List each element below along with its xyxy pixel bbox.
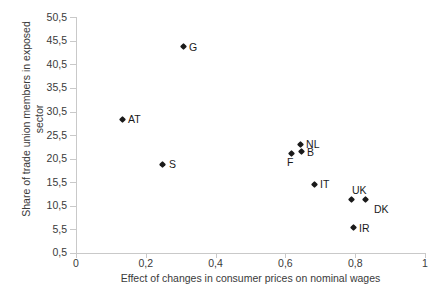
plot-area [76,17,425,253]
x-tick-label: 0,6 [265,257,305,269]
y-axis-title: Share of trade union members in exposed … [20,14,46,224]
data-point-label-g: G [189,42,197,52]
scatter-chart: Share of trade union members in exposed … [0,0,433,292]
x-tick-label: 0 [56,257,96,269]
y-tick-label: 45,5 [7,35,67,45]
x-axis-title: Effect of changes in consumer prices on … [76,272,425,284]
y-tick-label: 15,5 [7,177,67,187]
y-tick-label: 10,5 [7,200,67,210]
y-tick-label: 35,5 [7,82,67,92]
y-tick-label: 50,5 [7,12,67,22]
data-point-label-at: AT [128,114,141,124]
x-tick-label: 0,2 [126,257,166,269]
data-point-label-uk: UK [352,185,367,195]
data-point-label-nl: NL [306,139,319,149]
x-tick-label: 0,4 [196,257,236,269]
y-tick-label: 20,5 [7,153,67,163]
data-point-label-s: S [169,159,176,169]
x-tick-label: 0,8 [335,257,375,269]
y-tick-label: 30,5 [7,106,67,116]
y-tick-label: 40,5 [7,59,67,69]
y-tick-label: 25,5 [7,130,67,140]
x-tick-label: 1 [405,257,433,269]
data-point-label-dk: DK [374,204,389,214]
y-tick-label: 5,5 [7,224,67,234]
y-tick-label: 0,5 [7,247,67,257]
data-point-label-f: F [287,157,293,167]
data-point-label-it: IT [320,179,329,189]
data-point-label-ir: IR [359,223,370,233]
